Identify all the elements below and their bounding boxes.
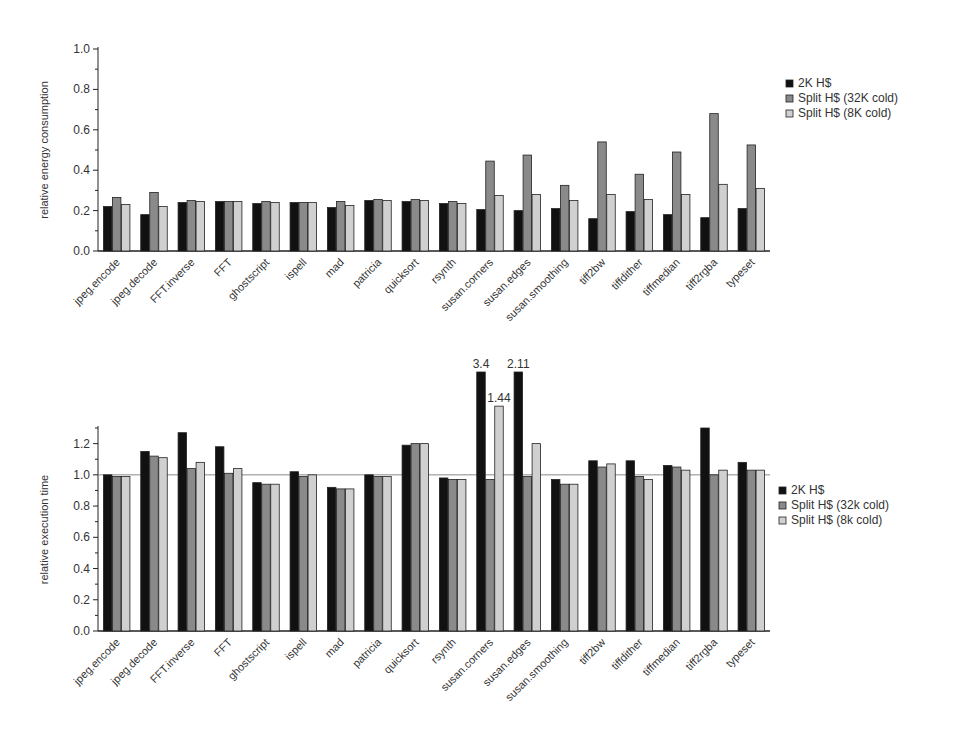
y-tick-label: 0.8 <box>73 82 90 96</box>
bar <box>103 475 112 631</box>
legend-swatch <box>779 517 786 524</box>
bar <box>486 480 495 631</box>
x-tick-label: tiffmedian <box>640 256 682 298</box>
data-annotation: 3.4 <box>473 357 490 371</box>
bar <box>514 211 523 251</box>
legend-swatch <box>779 487 786 494</box>
bar <box>710 475 719 631</box>
bar <box>635 174 644 251</box>
bar <box>253 204 262 251</box>
energy-chart: 0.00.20.40.60.81.0relative energy consum… <box>38 42 898 323</box>
legend-label: Split H$ (32k cold) <box>791 498 889 512</box>
bar <box>308 475 317 631</box>
bar <box>523 476 532 631</box>
bar <box>121 476 129 631</box>
legend-swatch <box>786 110 793 117</box>
bar <box>598 142 607 251</box>
bar <box>635 476 644 631</box>
bar <box>327 487 336 631</box>
bar <box>224 473 233 631</box>
bar <box>569 201 578 252</box>
bar <box>112 476 121 631</box>
x-tick-label: patricia <box>350 255 384 289</box>
x-tick-label: quicksort <box>381 256 421 296</box>
legend-swatch <box>786 80 793 87</box>
bar <box>589 461 598 631</box>
bar <box>112 197 121 251</box>
bar <box>336 202 345 251</box>
legend-label: Split H$ (32K cold) <box>798 91 898 105</box>
bar <box>719 470 728 631</box>
y-tick-label: 0.0 <box>73 624 90 638</box>
bar <box>374 476 383 631</box>
bar <box>121 205 129 251</box>
bar <box>345 206 354 251</box>
legend-label: 2K H$ <box>791 483 825 497</box>
bar <box>299 476 308 631</box>
bar <box>747 470 756 631</box>
bar <box>271 203 280 251</box>
y-tick-label: 0.8 <box>73 499 90 513</box>
bar <box>663 465 672 631</box>
x-tick-label: patricia <box>350 635 384 669</box>
bar <box>365 475 374 631</box>
x-tick-label: quicksort <box>381 636 421 676</box>
bar <box>383 476 392 631</box>
bar <box>159 458 168 631</box>
bar <box>738 462 747 631</box>
x-tick-label: mad <box>322 256 346 280</box>
bar <box>439 478 448 631</box>
bar <box>477 210 486 251</box>
bar <box>589 219 598 251</box>
bar <box>290 203 299 251</box>
bar <box>457 480 466 631</box>
bar <box>327 208 336 251</box>
bar <box>402 202 411 251</box>
bar <box>141 451 150 631</box>
bar <box>150 192 159 251</box>
bar <box>141 215 150 251</box>
bar <box>756 188 765 251</box>
bar <box>719 184 728 251</box>
bar <box>495 195 504 251</box>
bar <box>178 433 187 631</box>
x-tick-label: tiffdither <box>609 636 645 672</box>
bar <box>411 199 420 251</box>
x-tick-label: typeset <box>723 256 757 290</box>
x-tick-label: ispell <box>283 636 309 662</box>
bar <box>644 199 653 251</box>
bar <box>672 152 681 251</box>
execution-time-chart: 0.00.20.40.60.81.01.2relative execution … <box>38 357 889 703</box>
bar <box>299 203 308 251</box>
bar <box>448 480 457 631</box>
x-tick-label: FFT <box>211 256 234 279</box>
bar <box>103 207 112 251</box>
bar <box>271 484 280 631</box>
x-tick-label: tiff2rgba <box>683 635 720 672</box>
bar <box>738 209 747 251</box>
bar <box>701 218 710 251</box>
bar <box>626 212 635 251</box>
bar <box>756 470 765 631</box>
y-tick-label: 0.2 <box>73 204 90 218</box>
y-tick-label: 1.2 <box>73 437 90 451</box>
y-tick-label: 0.4 <box>73 562 90 576</box>
y-tick-label: 0.2 <box>73 593 90 607</box>
x-tick-label: rsynth <box>428 256 458 286</box>
data-annotation: 1.44 <box>487 391 511 405</box>
bar <box>681 194 690 251</box>
bar <box>233 202 242 251</box>
bar <box>560 185 569 251</box>
y-tick-label: 0.6 <box>73 530 90 544</box>
bar <box>681 470 690 631</box>
y-axis-label: relative execution time <box>38 475 50 584</box>
bar <box>345 489 354 631</box>
x-tick-label: mad <box>322 636 346 660</box>
bar <box>710 114 719 251</box>
bar <box>569 484 578 631</box>
bar <box>253 483 262 631</box>
bar <box>701 428 710 631</box>
bar <box>159 207 168 251</box>
bar <box>383 201 392 252</box>
y-tick-label: 1.0 <box>73 468 90 482</box>
